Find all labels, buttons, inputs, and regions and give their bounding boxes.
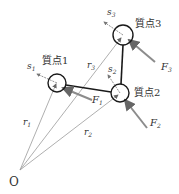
spin-label-s3: s3 bbox=[107, 7, 116, 18]
force-label-f3: F3 bbox=[160, 61, 172, 73]
position-vector-r1 bbox=[20, 84, 56, 170]
spin-label-s1: s1 bbox=[27, 61, 35, 72]
force-arrow-f1 bbox=[63, 88, 92, 100]
particle-2-label: 質点2 bbox=[134, 86, 160, 98]
particle-3-label: 質点3 bbox=[135, 17, 161, 29]
particle-system-diagram: 質点1 質点2 質点3 s1 s2 s3 F1 F2 F3 r1 r2 r3 O bbox=[0, 0, 179, 194]
position-label-r3: r3 bbox=[87, 60, 95, 71]
force-label-f2: F2 bbox=[149, 117, 161, 129]
rod-1-2 bbox=[66, 85, 111, 92]
spin-arrow-s1 bbox=[37, 74, 57, 83]
force-label-f1: F1 bbox=[91, 94, 103, 106]
origin-label: O bbox=[9, 175, 19, 189]
rod-2-3 bbox=[121, 45, 123, 84]
force-arrow-f2 bbox=[125, 100, 147, 128]
position-vectors bbox=[20, 38, 121, 170]
particle-1-label: 質点1 bbox=[42, 54, 68, 66]
force-arrow-f3 bbox=[129, 40, 155, 62]
position-label-r2: r2 bbox=[84, 127, 92, 138]
position-label-r1: r1 bbox=[23, 117, 31, 128]
spin-label-s2: s2 bbox=[108, 64, 117, 75]
